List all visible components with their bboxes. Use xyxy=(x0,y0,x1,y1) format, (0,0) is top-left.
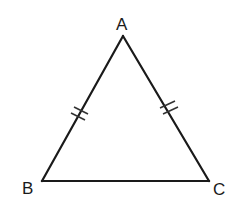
vertex-label-c: C xyxy=(213,180,225,199)
vertex-label-b: B xyxy=(22,179,33,198)
triangle-diagram: A B C xyxy=(0,0,242,207)
side-ac xyxy=(123,36,209,181)
side-ab xyxy=(42,36,123,181)
vertex-label-a: A xyxy=(116,15,128,34)
